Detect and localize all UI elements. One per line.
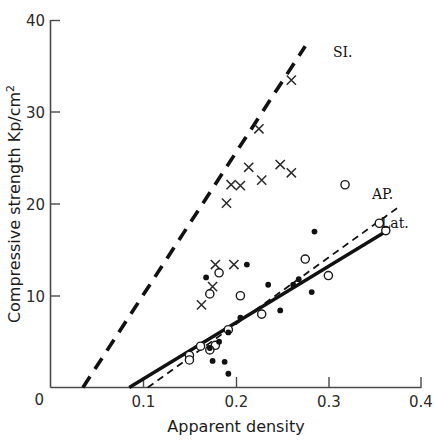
data-point-filled-circle xyxy=(207,345,213,351)
chart-container: 40 30 20 10 0 0.1 0.2 0.3 0.4 Apparent d… xyxy=(0,0,434,446)
y-axis-title-text: Compressive strength Kp/cm xyxy=(5,92,24,323)
y-tick-label-0: 0 xyxy=(34,391,44,409)
data-point-filled-circle xyxy=(225,330,231,336)
y-axis-tick-labels: 40 30 20 10 0 xyxy=(26,12,45,409)
data-point-open-circle xyxy=(341,181,349,189)
fit-line-si xyxy=(83,46,305,387)
data-point-filled-circle xyxy=(309,289,315,295)
data-point-cross xyxy=(244,163,253,172)
fit-lines-group xyxy=(83,46,398,387)
series-points-lat xyxy=(203,229,317,377)
data-point-filled-circle xyxy=(216,339,222,345)
data-point-filled-circle xyxy=(225,371,231,377)
data-point-cross xyxy=(227,180,236,189)
y-tick-label-30: 30 xyxy=(26,104,45,122)
y-axis-title: Compressive strength Kp/cm2 xyxy=(4,85,24,323)
data-point-open-circle xyxy=(301,255,309,263)
data-point-cross xyxy=(211,260,220,269)
x-tick-label-0.2: 0.2 xyxy=(225,393,249,411)
data-point-cross xyxy=(229,260,238,269)
series-label-lat: Lat. xyxy=(381,215,409,231)
data-point-open-circle xyxy=(324,271,332,279)
data-point-open-circle xyxy=(196,342,204,350)
y-tick-label-10: 10 xyxy=(26,288,45,306)
data-point-filled-circle xyxy=(210,358,216,364)
data-point-filled-circle xyxy=(265,282,271,288)
data-point-filled-circle xyxy=(203,275,209,281)
scatter-plot: 40 30 20 10 0 0.1 0.2 0.3 0.4 Apparent d… xyxy=(0,0,434,446)
data-point-cross xyxy=(254,124,263,133)
y-axis-ticks xyxy=(51,21,61,297)
data-point-cross xyxy=(287,76,296,85)
axes-group xyxy=(51,20,422,388)
series-points-si xyxy=(197,76,296,310)
data-point-filled-circle xyxy=(312,229,318,235)
series-label-si: SI. xyxy=(333,44,353,60)
data-point-filled-circle xyxy=(296,276,302,282)
data-point-open-circle xyxy=(206,290,214,298)
data-point-filled-circle xyxy=(222,359,228,365)
data-point-cross xyxy=(287,168,296,177)
data-point-cross xyxy=(222,198,231,207)
x-tick-label-0.1: 0.1 xyxy=(132,393,156,411)
y-tick-label-20: 20 xyxy=(26,196,45,214)
x-tick-label-0.4: 0.4 xyxy=(409,393,433,411)
data-point-open-circle xyxy=(236,292,244,300)
x-axis-tick-labels: 0.1 0.2 0.3 0.4 xyxy=(132,393,433,411)
y-axis-title-exponent: 2 xyxy=(4,85,17,92)
data-point-filled-circle xyxy=(244,262,250,268)
data-point-cross xyxy=(236,181,245,190)
data-point-open-circle xyxy=(258,310,266,318)
y-tick-label-40: 40 xyxy=(26,12,45,30)
data-point-cross xyxy=(257,176,266,185)
data-point-filled-circle xyxy=(290,282,296,288)
data-point-filled-circle xyxy=(237,315,243,321)
data-point-open-circle xyxy=(215,269,223,277)
series-label-ap: AP. xyxy=(371,186,393,202)
data-point-open-circle xyxy=(185,356,193,364)
x-tick-label-0.3: 0.3 xyxy=(317,393,341,411)
data-point-cross xyxy=(276,160,285,169)
data-point-filled-circle xyxy=(277,308,283,314)
x-axis-ticks xyxy=(144,377,422,388)
data-point-cross xyxy=(197,300,206,309)
x-axis-title: Apparent density xyxy=(167,417,304,436)
